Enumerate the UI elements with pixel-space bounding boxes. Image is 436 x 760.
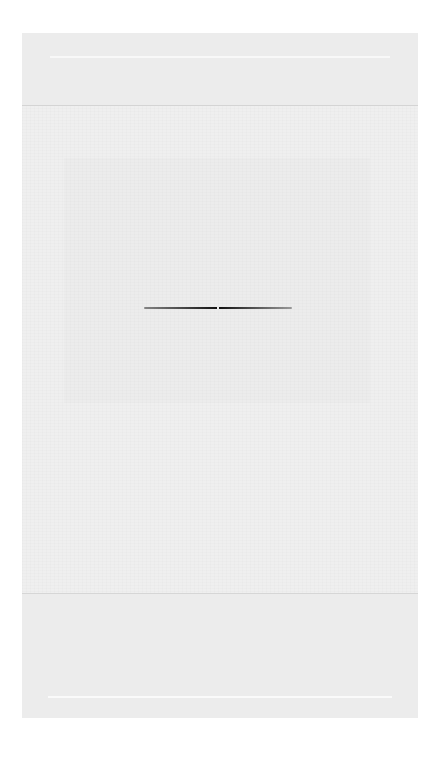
header-rule (50, 56, 390, 58)
page-header (22, 33, 418, 106)
footer-rule (48, 696, 392, 698)
page-footer (22, 593, 418, 718)
section-divider-ornament (144, 306, 292, 310)
text-area (64, 158, 370, 403)
divider-right-stroke (219, 307, 292, 309)
book-page (22, 33, 418, 718)
divider-left-stroke (144, 307, 217, 309)
